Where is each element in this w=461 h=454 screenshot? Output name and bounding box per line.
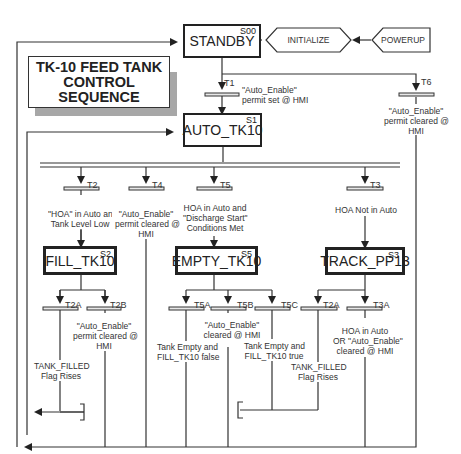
transition-cond-t2a: TANK_FILLED Flag Rises (34, 361, 88, 381)
transition-cond-t5b: "Auto_Enable" cleared @ HMI (203, 320, 261, 340)
transition-id-t5a: T5A (194, 300, 211, 310)
transition-cond-t6: "Auto_Enable" permit cleared @ HMI (384, 106, 448, 136)
title-line-1: TK-10 FEED TANK (29, 60, 169, 75)
transition-cond-t2: "HOA" in Auto and Tank Level Low (48, 209, 112, 229)
transition-id-t2: T2 (87, 180, 98, 190)
transition-id-t2a-track: T2A (323, 300, 340, 310)
transition-id-t5: T5 (220, 180, 231, 190)
transition-id-t3: T3 (370, 180, 381, 190)
transition-id-t6: T6 (421, 77, 432, 87)
transition-cond-t2a-track: TANK_FILLED Flag Rises (291, 362, 345, 382)
transition-id-t3a: T3A (373, 300, 390, 310)
step-empty-id: S5 (241, 249, 252, 259)
transition-cond-t5a: Tank Empty and FILL_TK10 false (157, 342, 217, 362)
transition-cond-t5c: Tank Empty and FILL_TK10 true (244, 341, 304, 361)
initialize-label: INITIALIZE (266, 28, 351, 52)
transition-id-t5b: T5B (237, 300, 254, 310)
step-track-pp13: TRACK_PP13 S3 (325, 247, 405, 275)
powerup-label: POWERUP (376, 28, 430, 52)
transition-id-t2b: T2B (110, 300, 127, 310)
step-track-id: S3 (388, 250, 399, 260)
transition-cond-t1: "Auto_Enable" permit set @ HMI (242, 85, 308, 105)
diagram-title: TK-10 FEED TANK CONTROL SEQUENCE (28, 56, 170, 108)
transition-cond-t3a: HOA in Auto OR "Auto_Enable" cleared @ H… (333, 326, 397, 356)
transition-cond-t5: HOA in Auto and "Discharge Start" Condit… (183, 203, 247, 233)
transition-cond-t2b: "Auto_Enable" permit cleared @ HMI (73, 321, 135, 351)
transition-cond-t4: "Auto_Enable" permit cleared @ HMI (115, 209, 177, 239)
title-line-3: SEQUENCE (29, 90, 169, 105)
transition-id-t1: T1 (224, 78, 235, 88)
step-standby: STANDBY S00 (183, 24, 261, 58)
step-empty-tk10: EMPTY_TK10 S5 (175, 246, 258, 275)
step-standby-id: S00 (240, 26, 256, 36)
step-auto-id: S1 (246, 115, 257, 125)
transition-id-t4: T4 (152, 180, 163, 190)
step-auto-tk10: AUTO_TK10 S1 (183, 113, 262, 147)
step-fill-tk10: FILL_TK10 S2 (43, 246, 117, 275)
transition-id-t2a: T2A (65, 300, 82, 310)
step-fill-id: S2 (100, 249, 111, 259)
title-line-2: CONTROL (29, 75, 169, 90)
transition-cond-t3: HOA Not in Auto (333, 205, 399, 215)
transition-id-t5c: T5C (281, 300, 298, 310)
